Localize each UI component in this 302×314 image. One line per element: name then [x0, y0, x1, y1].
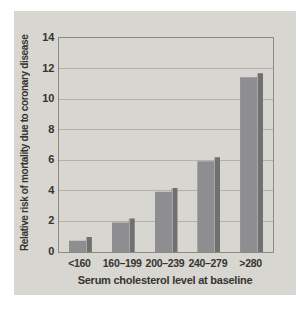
bar [69, 237, 92, 252]
y-tick-label: 8 [32, 123, 54, 135]
y-tick-label: 6 [32, 153, 54, 165]
y-tick-label: 0 [32, 245, 54, 257]
bar [240, 73, 263, 252]
gridline [59, 68, 273, 69]
y-tick-label: 2 [32, 214, 54, 226]
y-tick-label: 14 [32, 31, 54, 43]
x-tick-label: >280 [219, 257, 283, 269]
y-tick-label: 4 [32, 184, 54, 196]
x-axis-title: Serum cholesterol level at baseline [58, 274, 272, 286]
bar [197, 157, 220, 252]
y-axis-title: Relative risk of mortality due to corona… [17, 37, 32, 251]
plot-area [58, 37, 274, 253]
y-tick-label: 10 [32, 92, 54, 104]
bar [112, 218, 135, 252]
y-tick-label: 12 [32, 62, 54, 74]
figure: Relative risk of mortality due to corona… [0, 0, 302, 314]
chart-panel: Relative risk of mortality due to corona… [14, 11, 296, 295]
bar [155, 188, 178, 252]
